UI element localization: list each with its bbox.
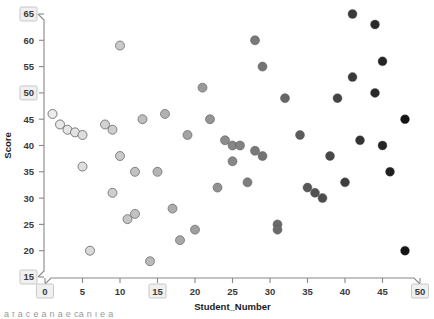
y-axis-title: Score bbox=[2, 132, 13, 158]
y-tick-label-50: 50 bbox=[23, 87, 34, 98]
scatter-point bbox=[348, 73, 357, 82]
scatter-point bbox=[326, 152, 335, 161]
scatter-point bbox=[281, 94, 290, 103]
x-axis-ticks bbox=[45, 278, 420, 283]
scatter-point bbox=[198, 83, 207, 92]
scatter-point bbox=[206, 115, 215, 124]
scatter-point bbox=[258, 152, 267, 161]
clipped-footer-text: a f a c e a n a e ca n l e a bbox=[4, 312, 113, 319]
scatter-point bbox=[138, 115, 147, 124]
scatter-point bbox=[341, 178, 350, 187]
scatter-point bbox=[236, 141, 245, 150]
scatter-point bbox=[183, 130, 192, 139]
y-tick-label-60: 60 bbox=[23, 35, 34, 46]
scatter-point bbox=[48, 109, 57, 118]
scatter-point bbox=[401, 115, 410, 124]
scatter-point bbox=[176, 236, 185, 245]
scatter-point bbox=[108, 125, 117, 134]
scatter-point bbox=[378, 57, 387, 66]
y-tick-label-45: 45 bbox=[23, 114, 34, 125]
scatter-point bbox=[386, 167, 395, 176]
y-tick-label-20: 20 bbox=[23, 245, 34, 256]
scatter-point bbox=[401, 246, 410, 255]
y-tick-label-35: 35 bbox=[23, 166, 34, 177]
scatter-point bbox=[273, 225, 282, 234]
scatter-point bbox=[296, 130, 305, 139]
scatter-point bbox=[251, 36, 260, 45]
y-tick-label-40: 40 bbox=[23, 140, 34, 151]
scatter-point bbox=[131, 209, 140, 218]
scatter-point bbox=[131, 167, 140, 176]
scatter-plot-figure: 1520253035404550556065 05101520253035404… bbox=[0, 0, 434, 319]
scatter-point bbox=[161, 109, 170, 118]
y-tick-label-25: 25 bbox=[23, 219, 34, 230]
scatter-point bbox=[108, 188, 117, 197]
scatter-point bbox=[116, 152, 125, 161]
y-tick-label-55: 55 bbox=[23, 61, 34, 72]
scatter-point bbox=[168, 204, 177, 213]
x-tick-label-20: 20 bbox=[190, 286, 201, 297]
scatter-point bbox=[243, 178, 252, 187]
y-tick-label-30: 30 bbox=[23, 193, 34, 204]
x-tick-label-35: 35 bbox=[302, 286, 313, 297]
scatter-point bbox=[213, 183, 222, 192]
scatter-point bbox=[348, 10, 357, 19]
scatter-point bbox=[371, 88, 380, 97]
scatter-point bbox=[153, 167, 162, 176]
x-tick-label-50: 50 bbox=[415, 286, 426, 297]
x-tick-label-30: 30 bbox=[265, 286, 276, 297]
x-tick-label-45: 45 bbox=[377, 286, 388, 297]
scatter-point bbox=[191, 225, 200, 234]
plot-axes: 1520253035404550556065 05101520253035404… bbox=[20, 7, 429, 298]
x-tick-label-10: 10 bbox=[115, 286, 126, 297]
clipped-footer-row: a f a c e a n a e ca n l e a bbox=[0, 312, 434, 319]
scatter-point bbox=[356, 136, 365, 145]
x-tick-label-5: 5 bbox=[80, 286, 86, 297]
y-tick-label-65: 65 bbox=[23, 8, 34, 19]
scatter-point bbox=[258, 62, 267, 71]
scatter-point bbox=[146, 257, 155, 266]
scatter-point bbox=[78, 130, 87, 139]
scatter-plot-canvas: 1520253035404550556065 05101520253035404… bbox=[0, 0, 434, 319]
scatter-point bbox=[333, 94, 342, 103]
scatter-point bbox=[371, 20, 380, 29]
scatter-point bbox=[86, 246, 95, 255]
scatter-point bbox=[228, 157, 237, 166]
scatter-point bbox=[378, 141, 387, 150]
y-tick-label-15: 15 bbox=[23, 271, 34, 282]
x-tick-label-15: 15 bbox=[152, 286, 163, 297]
x-tick-label-25: 25 bbox=[227, 286, 238, 297]
x-tick-label-40: 40 bbox=[340, 286, 351, 297]
y-axis-tick-labels: 1520253035404550556065 bbox=[20, 7, 37, 284]
x-axis-tick-labels: 05101520253035404550 bbox=[37, 284, 429, 298]
scatter-point bbox=[116, 41, 125, 50]
y-axis-ticks bbox=[39, 14, 44, 277]
x-axis-title: Student_Number bbox=[194, 301, 271, 312]
scatter-point bbox=[318, 194, 327, 203]
x-tick-label-0: 0 bbox=[42, 286, 47, 297]
scatter-point-group bbox=[48, 10, 410, 266]
scatter-point bbox=[78, 162, 87, 171]
